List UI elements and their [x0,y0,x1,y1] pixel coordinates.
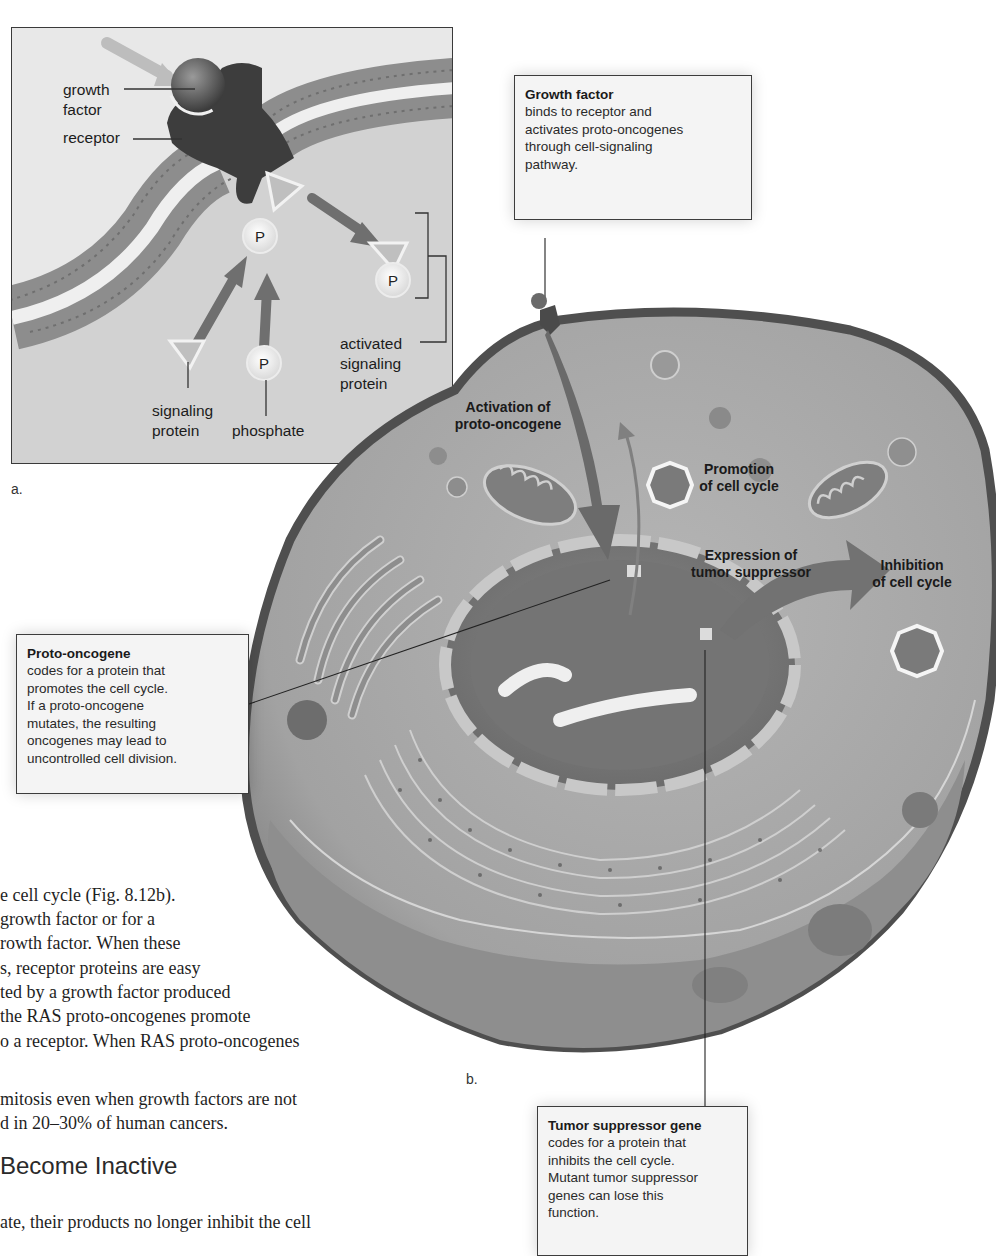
callout-title: Proto-oncogene [27,645,238,662]
paragraph-line: rowth factor. When these [0,931,181,955]
paragraph-line: growth factor or for a [0,907,155,931]
paragraph-line: mitosis even when growth factors are not [0,1087,297,1111]
callout-growth-factor: Growth factor binds to receptor and acti… [514,75,752,220]
callout-body: codes for a protein that inhibits the ce… [548,1134,737,1222]
label-activation-of-proto-oncogene: Activation of proto-oncogene [438,399,578,433]
section-heading: Become Inactive [0,1152,177,1180]
label-inhibition-of-cell-cycle: Inhibition of cell cycle [857,557,967,591]
paragraph-line: ate, their products no longer inhibit th… [0,1210,311,1234]
panel-b-letter: b. [466,1071,478,1087]
label-promotion-of-cell-cycle: Promotion of cell cycle [686,461,792,495]
callout-title: Growth factor [525,86,741,103]
callout-proto-oncogene: Proto-oncogene codes for a protein that … [16,634,249,794]
paragraph-line: ted by a growth factor produced [0,980,230,1004]
paragraph-line: d in 20–30% of human cancers. [0,1111,228,1135]
callout-body: codes for a protein that promotes the ce… [27,662,238,767]
paragraph-line: e cell cycle (Fig. 8.12b). [0,883,175,907]
label-expression-of-tumor-suppressor: Expression of tumor suppressor [676,547,826,581]
callout-body: binds to receptor and activates proto-on… [525,103,741,173]
callout-title: Tumor suppressor gene [548,1117,737,1134]
paragraph-line: o a receptor. When RAS proto-oncogenes [0,1029,300,1053]
paragraph-line: s, receptor proteins are easy [0,956,200,980]
callout-tumor-suppressor-gene: Tumor suppressor gene codes for a protei… [537,1106,748,1256]
paragraph-line: the RAS proto-oncogenes promote [0,1004,250,1028]
